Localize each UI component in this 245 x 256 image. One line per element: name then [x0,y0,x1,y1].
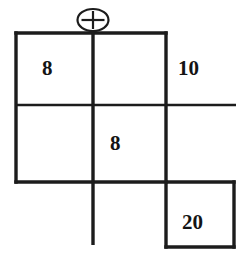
label-top-left-cell: 8 [42,58,53,79]
diagram-canvas [0,0,245,256]
label-bottom-right-box: 20 [182,212,203,233]
label-right-of-grid: 10 [178,58,199,79]
label-center-cell: 8 [110,133,121,154]
grid-diagram-figure: 8 8 10 20 [0,0,245,256]
